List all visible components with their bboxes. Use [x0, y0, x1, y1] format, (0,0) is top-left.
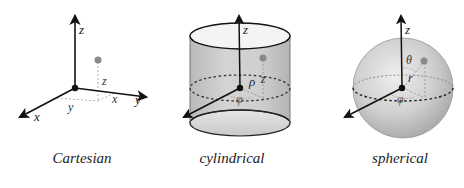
cartesian-x-coordinate: x	[111, 92, 118, 106]
cartesian-y-axis-label: y	[133, 92, 141, 107]
cartesian-origin	[72, 85, 78, 91]
cylindrical-z-coordinate: z	[260, 72, 266, 86]
cylindrical-z-axis	[239, 16, 240, 88]
caption-cartesian: Cartesian	[22, 150, 142, 167]
caption-spherical: spherical	[340, 150, 460, 167]
spherical-r-label: r	[408, 71, 413, 85]
spherical-point	[421, 58, 428, 65]
cylindrical-origin	[237, 85, 243, 91]
cartesian-projection-lines	[57, 62, 116, 101]
cylindrical-panel: z z ρ φ	[184, 16, 290, 136]
spherical-theta-label: θ	[406, 53, 412, 67]
cartesian-x-axis-label: x	[33, 109, 40, 124]
cylindrical-phi-label: φ	[236, 92, 243, 106]
cartesian-panel: z y x z x y	[20, 16, 146, 124]
cartesian-point	[95, 57, 102, 64]
cylindrical-rho-label: ρ	[248, 74, 255, 89]
cartesian-z-coordinate: z	[101, 74, 107, 88]
spherical-phi-label: φ	[397, 92, 404, 106]
cartesian-z-axis-label: z	[78, 22, 84, 37]
spherical-z-axis-label: z	[404, 22, 410, 37]
spherical-origin	[399, 85, 405, 91]
caption-cylindrical: cylindrical	[172, 150, 292, 167]
spherical-panel: z θ r φ	[345, 16, 453, 138]
cartesian-x-axis	[20, 88, 75, 117]
cylindrical-z-axis-label: z	[242, 22, 248, 37]
cartesian-y-coordinate: y	[67, 100, 74, 114]
cylindrical-point	[260, 55, 267, 62]
spherical-z-axis	[401, 16, 402, 88]
